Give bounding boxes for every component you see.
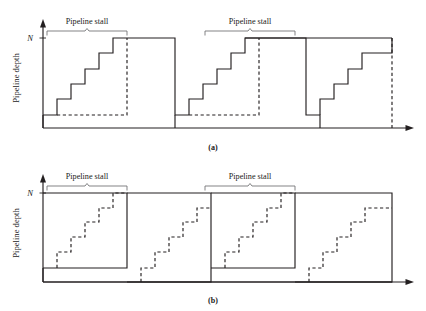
panel-a-stall-bracket-1-line: [47, 29, 127, 36]
panel-b-y-axis-label: Pipeline depth: [11, 208, 21, 258]
panel-a-x-axis-arrowhead: [406, 125, 415, 131]
panel-b-y-axis: [40, 174, 46, 282]
panel-b-stall-bracket-2-line: [205, 184, 295, 191]
panel-b-dashed-staircase-1: [57, 193, 127, 268]
panel-b-stall-bracket-2: Pipeline stall: [205, 172, 295, 191]
panel-b-n-label: N: [26, 188, 34, 198]
panel-a-x-axis: [43, 125, 414, 131]
panel-a-dashed-stall-2: [189, 38, 259, 115]
figure-root: N Pipeline depth Pipeline stall Pipeline…: [0, 0, 426, 311]
panel-b-dashed-staircase-4: [309, 208, 392, 282]
panel-a-solid-cycle-3: [320, 38, 392, 115]
panel-a-stall-label-2: Pipeline stall: [229, 17, 272, 26]
panel-b-dashed-staircase-3: [225, 193, 295, 268]
panel-a-stall-bracket-1: Pipeline stall: [47, 17, 127, 36]
panel-a: N Pipeline depth Pipeline stall Pipeline…: [11, 17, 414, 152]
panel-a-dashed-stall-1: [57, 38, 127, 115]
pipeline-depth-figure: N Pipeline depth Pipeline stall Pipeline…: [0, 0, 426, 311]
panel-a-stall-label-1: Pipeline stall: [66, 17, 109, 26]
panel-b-stall-bracket-1: Pipeline stall: [47, 172, 127, 191]
panel-b-y-axis-arrowhead: [40, 174, 46, 183]
panel-b-stall-bracket-1-line: [47, 184, 127, 191]
panel-b: N Pipeline depth Pipeline stall Pipeline…: [11, 172, 414, 305]
panel-a-n-label: N: [26, 33, 34, 43]
panel-b-stall-label-1: Pipeline stall: [66, 172, 109, 181]
panel-a-y-axis-label: Pipeline depth: [11, 53, 21, 103]
panel-b-dashed-staircase-2: [141, 208, 211, 282]
panel-a-y-axis: [40, 19, 46, 128]
panel-b-x-axis-arrowhead: [406, 279, 415, 285]
panel-a-caption: (a): [208, 143, 218, 152]
panel-a-stall-bracket-2: Pipeline stall: [205, 17, 295, 36]
panel-b-stall-label-2: Pipeline stall: [229, 172, 272, 181]
panel-b-caption: (b): [208, 296, 218, 305]
panel-a-stall-bracket-2-line: [205, 29, 295, 36]
panel-a-y-axis-arrowhead: [40, 19, 46, 28]
